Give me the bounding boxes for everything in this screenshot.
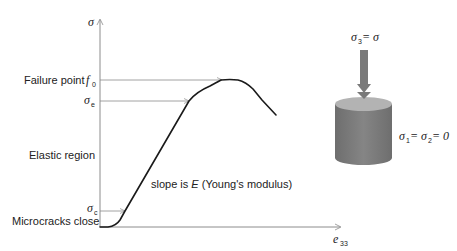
load-arrow-shaft xyxy=(360,50,368,85)
crack-closure-level: σ c xyxy=(87,201,125,216)
svg-text:= σ: = σ xyxy=(410,129,428,143)
x-axis-label: e xyxy=(333,232,339,246)
load-arrow-down-icon xyxy=(357,84,371,93)
load-label: σ xyxy=(351,30,358,44)
elastic-region-label: Elastic region xyxy=(29,149,95,161)
stress-strain-curve xyxy=(100,80,276,228)
cylinder-body xyxy=(335,104,392,165)
specimen-cylinder: σ 3 = σ σ 1 = σ 2 = 0 xyxy=(335,30,449,165)
microcracks-close-label: Microcracks close xyxy=(12,215,99,227)
y-axis: σ xyxy=(88,15,103,227)
svg-text:= 0: = 0 xyxy=(432,129,449,143)
y-axis-label: σ xyxy=(88,15,95,29)
svg-text:σ: σ xyxy=(399,129,406,143)
x-axis: e 33 xyxy=(100,224,348,247)
failure-level: Failure point f 0 xyxy=(24,73,222,88)
stress-strain-diagram: σ e 33 Failure point f 0 σ e σ c Elastic… xyxy=(0,0,457,251)
sigma-e-symbol: σ xyxy=(84,93,91,107)
sigma-e-sub: e xyxy=(91,101,95,108)
slope-annotation: slope is E (Young's modulus) xyxy=(151,178,292,190)
failure-point-label: Failure point xyxy=(24,74,85,86)
sigma-c-symbol: σ xyxy=(87,201,94,215)
svg-text:= σ: = σ xyxy=(362,30,380,44)
x-axis-label-sub: 33 xyxy=(340,240,348,247)
cylinder-top xyxy=(335,97,392,111)
failure-symbol-sub: 0 xyxy=(92,81,96,88)
failure-symbol: f xyxy=(86,73,91,87)
